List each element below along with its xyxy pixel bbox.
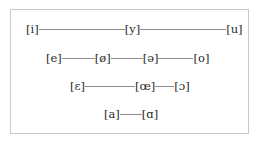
vowel-node: [e]	[46, 49, 62, 67]
vowel-connector	[158, 58, 193, 59]
vowel-node: [y]	[125, 20, 140, 38]
vowel-connector	[85, 86, 135, 87]
vowel-node: [o]	[193, 49, 209, 67]
vowel-node: [a]	[104, 105, 120, 123]
vowel-row-close: [i] [y] [u]	[26, 20, 243, 38]
vowel-row-open: [a] [ɑ]	[104, 105, 158, 123]
vowel-node: [ø]	[95, 49, 111, 67]
vowel-node: [œ]	[135, 77, 155, 95]
vowel-node: [ɔ]	[174, 77, 189, 95]
vowel-connector	[62, 58, 95, 59]
vowel-node: [u]	[226, 20, 242, 38]
vowel-connector	[155, 86, 174, 87]
vowel-node: [ɑ]	[142, 105, 158, 123]
vowel-connector	[120, 114, 142, 115]
vowel-node: [ə]	[143, 49, 159, 67]
vowel-row-open-mid: [ɛ] [œ] [ɔ]	[70, 77, 190, 95]
vowel-connector	[111, 58, 143, 59]
vowel-row-close-mid: [e] [ø] [ə] [o]	[46, 49, 209, 67]
vowel-chart-figure: [i] [y] [u] [e] [ø] [ə] [o] [ɛ] [œ] [ɔ] …	[0, 0, 260, 142]
vowel-node: [i]	[26, 20, 39, 38]
vowel-connector	[140, 29, 226, 30]
vowel-node: [ɛ]	[70, 77, 85, 95]
vowel-connector	[39, 29, 125, 30]
